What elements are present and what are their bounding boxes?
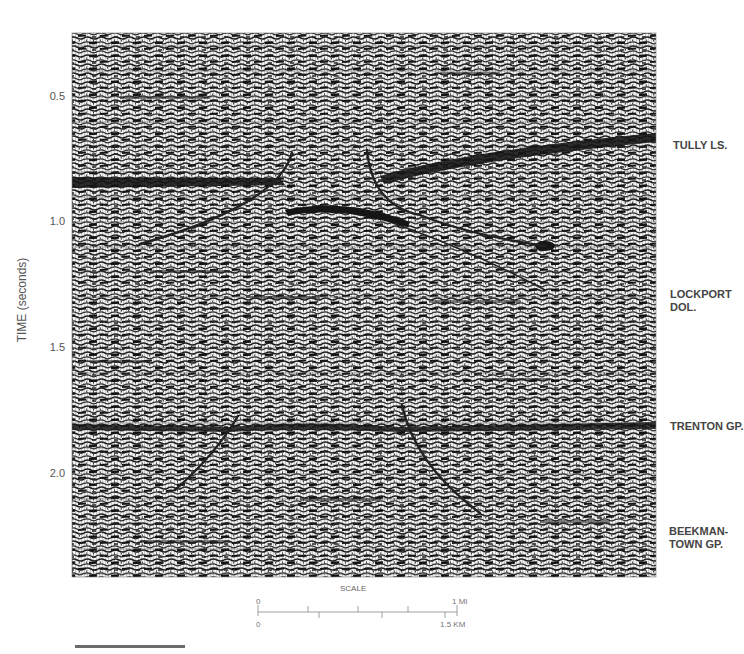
y-tick-2-0: 2.0 xyxy=(35,467,65,479)
y-axis-label: TIME (seconds) xyxy=(15,258,29,343)
y-tick-0-5: 0.5 xyxy=(35,90,65,102)
y-tick-1-5: 1.5 xyxy=(35,341,65,353)
formation-label-tully: TULLY LS. xyxy=(673,139,727,152)
seismic-traces xyxy=(72,33,656,577)
footer-rule xyxy=(75,645,185,648)
formation-label-trenton: TRENTON GP. xyxy=(670,420,744,433)
scale-bar xyxy=(258,605,457,618)
scale-top-start: 0 xyxy=(256,597,260,606)
scale-top-end: 1 MI xyxy=(452,597,468,606)
scale-bottom-start: 0 xyxy=(256,620,260,629)
y-tick-1-0: 1.0 xyxy=(35,215,65,227)
scale-bottom-end: 1.5 KM xyxy=(440,620,465,629)
formation-label-lockport: LOCKPORT DOL. xyxy=(670,288,732,314)
formation-label-beekmantown: BEEKMAN- TOWN GP. xyxy=(669,525,728,551)
scale-title: SCALE xyxy=(340,584,366,593)
